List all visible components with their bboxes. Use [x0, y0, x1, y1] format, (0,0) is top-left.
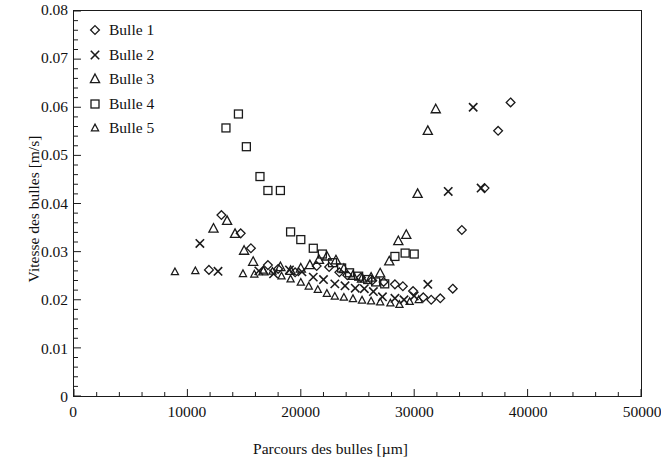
x-tick-label: 30000: [395, 404, 434, 419]
data-point: [391, 280, 400, 289]
data-point: [230, 229, 239, 238]
x-tick-label: 10000: [167, 404, 206, 419]
data-point: [297, 236, 305, 244]
data-point: [457, 226, 466, 235]
data-point: [249, 257, 258, 266]
data-point: [331, 280, 339, 288]
data-point: [309, 273, 317, 281]
data-point: [401, 249, 409, 257]
data-point: [369, 287, 377, 295]
scatter-plot-canvas: [74, 11, 641, 396]
legend-item-label: Bulle 4: [109, 92, 154, 117]
legend-item-label: Bulle 2: [109, 43, 154, 68]
axis-ticks: [74, 11, 641, 396]
data-point: [222, 124, 230, 132]
series-2: [196, 103, 486, 304]
data-point: [358, 296, 365, 303]
data-point: [196, 239, 204, 247]
data-point: [376, 268, 385, 277]
data-point: [287, 275, 294, 282]
data-point: [341, 282, 349, 290]
data-point: [309, 244, 317, 252]
data-point: [234, 110, 242, 118]
data-point: [360, 285, 368, 293]
x-tick-label: 0: [69, 404, 77, 419]
data-point: [91, 100, 99, 108]
x-axis-title: Parcours des bulles [µm]: [0, 440, 661, 458]
triangle-marker-icon: [85, 69, 105, 89]
data-point: [477, 184, 485, 192]
data-point: [410, 250, 418, 258]
legend-item-label: Bulle 5: [109, 116, 154, 141]
x-tick-label: 40000: [509, 404, 548, 419]
data-point: [469, 103, 477, 111]
data-point: [427, 295, 436, 304]
data-point: [192, 267, 199, 274]
plot-area: [73, 10, 642, 397]
data-point: [448, 284, 457, 293]
data-point: [402, 230, 411, 239]
legend-item-label: Bulle 1: [109, 18, 154, 43]
data-point: [90, 74, 99, 83]
triangle-small-marker-icon: [85, 118, 105, 138]
data-point: [314, 286, 321, 293]
data-point: [264, 187, 272, 195]
legend-item-label: Bulle 3: [109, 67, 154, 92]
data-point: [424, 280, 432, 288]
data-point: [242, 143, 250, 151]
data-point: [413, 189, 422, 198]
data-point: [349, 295, 356, 302]
legend-item-2: Bulle 2: [85, 43, 154, 68]
diamond-marker-icon: [85, 20, 105, 40]
data-point: [205, 266, 214, 275]
data-point: [331, 293, 338, 300]
data-point: [276, 187, 284, 195]
data-point: [506, 98, 515, 107]
data-point: [209, 224, 218, 233]
data-point: [423, 126, 432, 135]
chart-legend: Bulle 1Bulle 2Bulle 3Bulle 4Bulle 5: [85, 18, 154, 141]
chart-root: 00.010.020.030.040.050.060.070.08 010000…: [0, 0, 661, 470]
data-point: [431, 104, 440, 113]
data-point: [340, 293, 347, 300]
data-point: [398, 282, 407, 291]
data-point: [351, 284, 359, 292]
data-point: [391, 252, 399, 260]
data-point: [323, 290, 330, 297]
legend-item-5: Bulle 5: [85, 116, 154, 141]
x-tick-label: 20000: [281, 404, 320, 419]
data-point: [91, 124, 98, 131]
data-point: [239, 270, 246, 277]
legend-item-4: Bulle 4: [85, 92, 154, 117]
legend-item-1: Bulle 1: [85, 18, 154, 43]
data-point: [319, 275, 327, 283]
cross-marker-icon: [85, 45, 105, 65]
series-1: [205, 98, 515, 304]
data-point: [256, 173, 264, 181]
data-point: [214, 267, 222, 275]
data-point: [217, 211, 226, 220]
series-3: [209, 104, 440, 282]
y-axis-title: Vitesse des bulles [m/s]: [25, 84, 43, 334]
data-point: [436, 294, 445, 303]
data-point: [287, 228, 295, 236]
data-point: [297, 279, 304, 286]
data-point: [494, 126, 503, 135]
data-point: [171, 268, 178, 275]
data-point: [444, 187, 452, 195]
data-point: [377, 298, 384, 305]
data-point: [305, 282, 312, 289]
data-point: [368, 297, 375, 304]
data-point: [91, 51, 99, 59]
x-tick-label: 50000: [623, 404, 661, 419]
data-point: [91, 26, 100, 35]
legend-item-3: Bulle 3: [85, 67, 154, 92]
square-marker-icon: [85, 94, 105, 114]
